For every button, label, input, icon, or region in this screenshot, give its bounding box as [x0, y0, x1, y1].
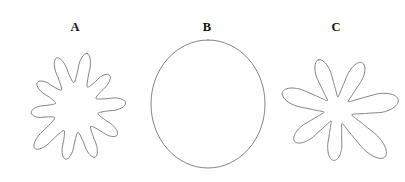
shape-comparison-figure: A B C — [0, 0, 405, 182]
panel-label-c: C — [331, 20, 340, 34]
figure-canvas: A B C — [0, 0, 405, 182]
panel-label-a: A — [70, 20, 79, 34]
panel-label-b: B — [203, 20, 211, 34]
